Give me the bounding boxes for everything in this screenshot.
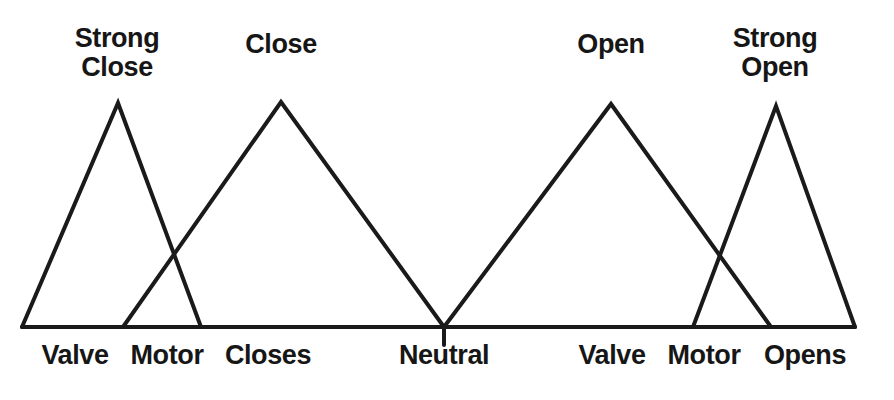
membership-triangle-strong-open bbox=[693, 106, 855, 327]
membership-triangles bbox=[22, 102, 855, 327]
baseline-axis bbox=[22, 327, 855, 345]
membership-plot bbox=[0, 0, 894, 400]
membership-triangle-close bbox=[123, 102, 444, 327]
membership-triangle-open bbox=[444, 104, 771, 327]
membership-triangle-strong-close bbox=[22, 103, 201, 327]
fuzzy-membership-figure: Strong CloseCloseOpenStrong Open ValveMo… bbox=[0, 0, 894, 400]
